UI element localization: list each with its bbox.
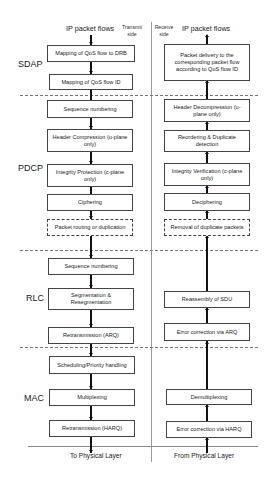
pdcp-rx-deciphering: Deciphering (164, 193, 250, 211)
box-text: Header Decompression (u-plane only) (167, 104, 247, 118)
rlc-rx-error-correction-arq: Error correction via ARQ (164, 323, 250, 341)
from-physical-layer-label: From Physical Layer (174, 452, 234, 459)
box-text: Mapping of QoS flow to DRB (55, 50, 127, 57)
sdap-tx-map-drb: Mapping of QoS flow to DRB (47, 45, 135, 62)
pdcp-tx-header-compression: Header Compression (u-plane only) (47, 129, 133, 152)
box-text: Retransmission (HARQ) (62, 425, 122, 432)
box-text: Segmentation & Resegmentation (51, 292, 131, 306)
box-text: Mapping of QoS flow ID (61, 79, 120, 86)
box-text: Removal of duplicate packets (170, 224, 243, 231)
box-text: Header Compression (u-plane only) (50, 134, 130, 148)
pdcp-rx-header-decompression: Header Decompression (u-plane only) (164, 99, 250, 122)
divider-rlc-mac (20, 347, 258, 348)
transmit-side-label: Transmit side (119, 24, 145, 38)
divider-physical (28, 446, 258, 447)
receive-side-label: Receive side (153, 24, 175, 38)
layer-label-pdcp: PDCP (18, 163, 43, 173)
mac-rx-error-correction-harq: Error correction via HARQ (166, 421, 252, 438)
box-text: Error correction via HARQ (177, 426, 242, 433)
rlc-tx-retransmission-arq: Retransmission (ARQ) (48, 327, 134, 344)
transmit-side-text: Transmit side (122, 24, 142, 37)
box-text: Integrity Verification (c-plane only) (167, 168, 247, 182)
transmit-ip-flows-label: IP packet flows (66, 24, 114, 33)
pdcp-tx-ciphering: Ciphering (47, 194, 133, 211)
box-text: Scheduling/Priority handling (57, 362, 126, 369)
divider-pdcp-rlc (20, 250, 258, 251)
pdcp-tx-routing-duplication: Packet routing or duplication (47, 219, 133, 236)
box-text: Error correction via ARQ (177, 329, 238, 336)
box-text: Demultiplexing (191, 394, 228, 401)
mac-tx-retransmission-harq: Retransmission (HARQ) (49, 420, 135, 437)
pdcp-tx-seq-numbering: Sequence numbering (47, 100, 133, 118)
sdap-rx-packet-delivery: Packet delivery to the corresponding pac… (164, 44, 250, 81)
box-text: Sequence numbering (63, 106, 116, 113)
box-text: Sequence numbering (64, 263, 117, 270)
arrow-up-icon (205, 341, 209, 344)
box-text: Reassembly of SDU (182, 296, 232, 303)
column-separator (151, 22, 152, 462)
to-physical-layer-label: To Physical Layer (70, 452, 122, 459)
box-text: Reordering & Duplicate detection (167, 134, 247, 148)
pdcp-rx-reordering: Reordering & Duplicate detection (164, 130, 250, 152)
rlc-tx-seq-numbering: Sequence numbering (48, 258, 134, 275)
pdcp-tx-integrity-protection: Integrity Protection (c-plane only) (47, 164, 133, 187)
mac-tx-scheduling: Scheduling/Priority handling (49, 356, 135, 374)
pdcp-rx-integrity-verification: Integrity Verification (c-plane only) (164, 163, 250, 186)
box-text: Packet delivery to the corresponding pac… (167, 52, 247, 73)
box-text: Retransmission (ARQ) (63, 332, 119, 339)
box-text: Integrity Protection (c-plane only) (50, 169, 130, 183)
box-text: Packet routing or duplication (55, 224, 126, 231)
layer-label-rlc: RLC (26, 293, 44, 303)
mac-rx-demultiplexing: Demultiplexing (166, 389, 252, 405)
box-text: Ciphering (78, 199, 102, 206)
receive-side-text: Receive side (155, 24, 174, 37)
receive-ip-flows-label: IP packet flows (182, 24, 230, 33)
arrow-up-icon (205, 34, 209, 37)
pdcp-rx-removal-duplicates: Removal of duplicate packets (164, 219, 250, 236)
layer-label-mac: MAC (24, 393, 44, 403)
rlc-tx-segmentation: Segmentation & Resegmentation (48, 288, 134, 310)
box-text: Deciphering (192, 199, 222, 206)
mac-tx-multiplexing: Multiplexing (49, 389, 135, 406)
divider-sdap-pdcp (20, 95, 258, 96)
box-text: Multiplexing (77, 394, 107, 401)
sdap-tx-map-flow-id: Mapping of QoS flow ID (49, 74, 133, 90)
rlc-rx-reassembly: Reassembly of SDU (164, 291, 250, 308)
layer-label-sdap: SDAP (18, 59, 43, 69)
